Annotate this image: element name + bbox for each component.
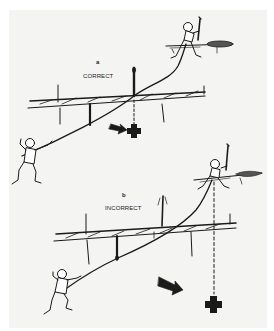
log-b bbox=[54, 196, 236, 264]
anchor-sling-b bbox=[115, 236, 118, 261]
belayer-figure-a bbox=[171, 17, 201, 58]
panel-b bbox=[44, 144, 262, 314]
anchor-sling-a bbox=[132, 67, 135, 96]
leader-figure-a bbox=[12, 139, 52, 185]
panel-a-letter: a bbox=[96, 59, 99, 65]
fall-point-cross-b bbox=[205, 296, 222, 313]
top-ledge-a bbox=[166, 41, 233, 53]
panel-a bbox=[12, 17, 233, 184]
fall-arrow-a bbox=[109, 124, 127, 134]
panel-b-caption: INCORRECT bbox=[105, 205, 142, 211]
leader-figure-b bbox=[44, 270, 81, 315]
top-ledge-b bbox=[194, 171, 262, 184]
panel-a-caption: CORRECT bbox=[83, 73, 113, 79]
panel-b-letter: b bbox=[122, 192, 126, 198]
rope-diagram bbox=[0, 0, 274, 331]
fall-arrow-b bbox=[158, 277, 183, 295]
log-a bbox=[28, 85, 205, 125]
fall-point-cross-a bbox=[127, 124, 141, 138]
